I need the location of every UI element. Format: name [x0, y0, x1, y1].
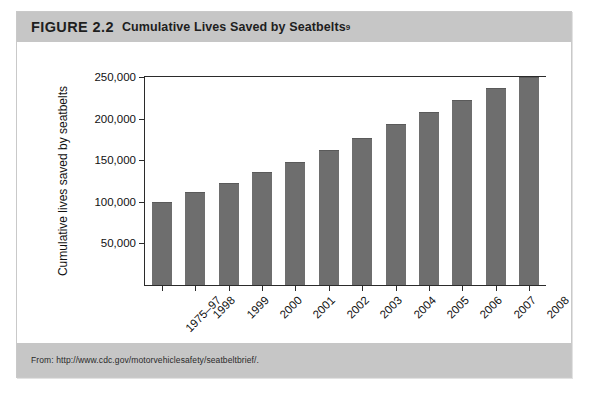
- bar-1998: [185, 192, 205, 285]
- bar-2008: [519, 77, 539, 285]
- y-tick-label-250000: 250,000: [94, 71, 136, 83]
- x-tick-0: [162, 285, 163, 291]
- x-tick-4: [295, 285, 296, 291]
- x-tick-1: [195, 285, 196, 291]
- x-tick-label-11: 2008: [545, 294, 572, 321]
- x-tick-label-2: 1999: [244, 294, 271, 321]
- y-tick-label-100000: 100,000: [94, 196, 136, 208]
- bar-2006: [452, 100, 472, 285]
- chart-canvas: Cumulative lives saved by seatbelts 50,0…: [17, 42, 571, 344]
- y-tick-200000: [139, 119, 145, 120]
- x-tick-3: [262, 285, 263, 291]
- bar-2002: [319, 150, 339, 285]
- x-tick-7: [396, 285, 397, 291]
- x-tick-10: [496, 285, 497, 291]
- x-tick-label-9: 2006: [478, 294, 505, 321]
- bar-2003: [352, 138, 372, 285]
- figure-title-superscript: 9: [346, 23, 350, 32]
- x-tick-2: [229, 285, 230, 291]
- y-tick-100000: [139, 202, 145, 203]
- y-tick-50000: [139, 243, 145, 244]
- x-tick-11: [529, 285, 530, 291]
- figure-source-footer: From: http://www.cdc.gov/motorvehiclesaf…: [17, 343, 571, 377]
- y-tick-250000: [139, 77, 145, 78]
- bar-2001: [285, 162, 305, 285]
- bar-1975-97: [152, 202, 172, 285]
- bar-2005: [419, 112, 439, 285]
- y-tick-label-200000: 200,000: [94, 113, 136, 125]
- figure-header: FIGURE 2.2 Cumulative Lives Saved by Sea…: [17, 12, 571, 42]
- x-tick-label-6: 2003: [378, 294, 405, 321]
- x-tick-label-4: 2001: [311, 294, 338, 321]
- x-tick-6: [362, 285, 363, 291]
- plot-area: 50,000100,000150,000200,000250,0001975–9…: [144, 76, 546, 286]
- x-tick-label-8: 2005: [445, 294, 472, 321]
- x-tick-8: [429, 285, 430, 291]
- y-axis-title-label: Cumulative lives saved by seatbelts: [56, 86, 70, 276]
- x-tick-5: [329, 285, 330, 291]
- bar-2004: [386, 124, 406, 285]
- x-tick-label-3: 2000: [277, 294, 304, 321]
- y-tick-150000: [139, 160, 145, 161]
- x-tick-label-5: 2002: [344, 294, 371, 321]
- x-tick-label-7: 2004: [411, 294, 438, 321]
- bar-1999: [219, 183, 239, 285]
- source-attribution: From: http://www.cdc.gov/motorvehiclesaf…: [31, 355, 259, 365]
- bar-2007: [486, 88, 506, 285]
- x-tick-9: [462, 285, 463, 291]
- bars-layer: [145, 77, 546, 285]
- y-tick-label-50000: 50,000: [101, 237, 136, 249]
- x-tick-label-10: 2007: [511, 294, 538, 321]
- figure-container: FIGURE 2.2 Cumulative Lives Saved by Sea…: [16, 11, 572, 378]
- figure-number: FIGURE 2.2: [31, 19, 114, 35]
- y-tick-label-150000: 150,000: [94, 154, 136, 166]
- bar-2000: [252, 172, 272, 285]
- y-axis-title: Cumulative lives saved by seatbelts: [55, 76, 71, 286]
- figure-title: Cumulative Lives Saved by Seatbelts: [122, 20, 346, 34]
